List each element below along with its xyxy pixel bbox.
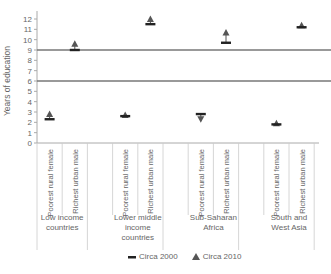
marker-circa-2000: [120, 115, 130, 117]
y-tick-label: 1: [28, 129, 33, 138]
y-tick-label: 11: [24, 25, 33, 34]
y-tick-label: 6: [28, 77, 33, 86]
y-tick-label: 2: [28, 118, 33, 127]
y-tick-label: 4: [28, 98, 33, 107]
marker-circa-2000: [271, 123, 281, 125]
chart: 0123456789101112Years of educationPoores…: [0, 0, 331, 274]
x-subcategory-label: Poorest rural female: [46, 149, 55, 217]
marker-circa-2000: [196, 113, 206, 115]
marker-circa-2000: [70, 49, 80, 51]
x-subcategory-label: Poorest rural female: [121, 149, 130, 217]
x-group-label: Sub-Saharan: [190, 213, 237, 222]
x-subcategory-label: Richest urban male: [146, 149, 155, 214]
marker-circa-2010: [197, 116, 204, 123]
legend-item-circa-2010: Circa 2010: [192, 252, 242, 261]
x-group-label: income: [125, 223, 151, 232]
x-group-label: Africa: [203, 223, 224, 232]
y-axis-label: Years of education: [2, 46, 12, 116]
legend-item-circa-2000: Circa 2000: [128, 252, 178, 261]
marker-circa-2000: [297, 26, 307, 28]
triangle-marker-icon: [192, 253, 200, 260]
x-subcategory-label: Richest urban male: [222, 149, 231, 214]
marker-circa-2010: [223, 29, 230, 36]
y-tick-label: 12: [23, 15, 32, 24]
marker-circa-2010: [46, 111, 53, 118]
marker-circa-2000: [221, 42, 231, 44]
x-subcategory-label: Poorest rural female: [272, 149, 281, 217]
x-group-label: South and: [271, 213, 307, 222]
marker-circa-2010: [71, 40, 78, 47]
x-subcategory-label: Richest urban male: [298, 149, 307, 214]
marker-circa-2010: [147, 16, 154, 23]
y-tick-label: 7: [28, 67, 33, 76]
dash-marker-icon: [128, 254, 136, 260]
x-group-label: Lower middle: [114, 213, 162, 222]
y-tick-label: 9: [28, 46, 33, 55]
x-group-label: West Asia: [271, 223, 307, 232]
y-tick-label: 8: [28, 56, 33, 65]
legend: Circa 2000 Circa 2010: [128, 252, 241, 261]
legend-label: Circa 2000: [139, 252, 178, 261]
y-tick-label: 5: [28, 87, 33, 96]
marker-circa-2000: [45, 118, 55, 120]
x-group-label: countries: [46, 223, 78, 232]
x-group-label: countries: [122, 233, 154, 242]
x-group-label: Low income: [41, 213, 84, 222]
y-tick-label: 10: [23, 36, 32, 45]
marker-circa-2000: [145, 23, 155, 25]
x-subcategory-label: Poorest rural female: [197, 149, 206, 217]
y-tick-label: 3: [28, 108, 33, 117]
y-tick-label: 0: [28, 139, 33, 148]
x-subcategory-label: Richest urban male: [71, 149, 80, 214]
legend-label: Circa 2010: [203, 252, 242, 261]
